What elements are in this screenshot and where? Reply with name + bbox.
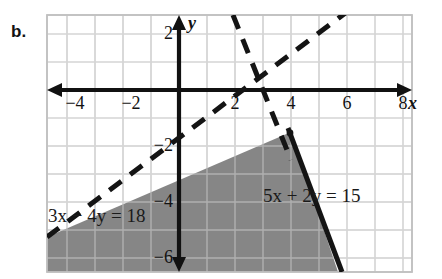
coordinate-plane [0, 0, 442, 279]
y-tick-label--2: −2 [133, 135, 173, 156]
x-tick-label-4: 4 [271, 93, 311, 114]
equation-label-3x-minus-4y: 3x − 4y = 18 [48, 205, 145, 227]
x-tick-label-6: 6 [327, 93, 367, 114]
y-axis-label: y [188, 13, 196, 34]
x-tick-label-8: 8 [383, 93, 423, 114]
equation-label-5x-plus-2y: 5x + 2y = 15 [263, 185, 360, 207]
vertex-point [287, 130, 294, 137]
x-tick-label--4: −4 [55, 93, 95, 114]
x-tick-label-2: 2 [215, 93, 255, 114]
x-tick-label--2: −2 [111, 93, 151, 114]
y-tick-label--6: −6 [133, 247, 173, 268]
y-tick-label-2: 2 [137, 23, 173, 44]
figure-container: b. [0, 0, 442, 279]
x-axis-label: x [408, 93, 417, 114]
